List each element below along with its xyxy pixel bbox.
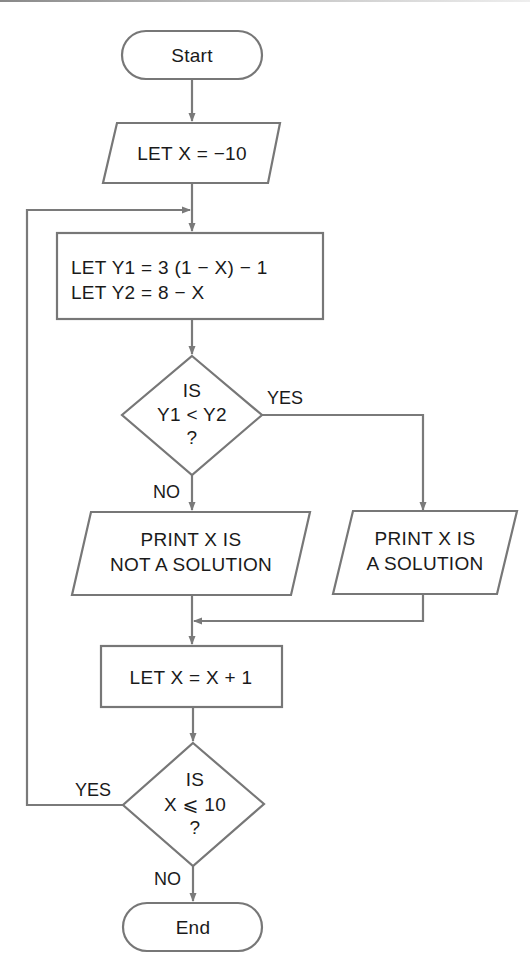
decision1-line-3: ? (187, 427, 198, 448)
solution-line-2: A SOLUTION (366, 553, 483, 574)
connector-decision1-yes (262, 415, 423, 510)
not-solution-line-2: NOT A SOLUTION (110, 554, 272, 575)
solution-output: PRINT X IS A SOLUTION (333, 511, 517, 594)
increment-label: LET X = X + 1 (130, 667, 253, 688)
decision1-yes-label: YES (267, 388, 303, 408)
not-solution-line-1: PRINT X IS (141, 529, 242, 550)
decision1-diamond: IS Y1 < Y2 ? (122, 356, 262, 475)
flowchart: Start LET X = −10 LET Y1 = 3 (1 − X) − 1… (0, 0, 530, 965)
compute-process: LET Y1 = 3 (1 − X) − 1 LET Y2 = 8 − X (57, 233, 323, 319)
decision2-no-label: NO (154, 869, 181, 889)
init-parallelogram: LET X = −10 (103, 123, 280, 183)
decision1-line-1: IS (183, 380, 202, 401)
solution-line-1: PRINT X IS (375, 528, 476, 549)
not-solution-output: PRINT X IS NOT A SOLUTION (72, 512, 310, 595)
decision2-line-1: IS (186, 769, 205, 790)
decision2-yes-label: YES (75, 780, 111, 800)
compute-line-2: LET Y2 = 8 − X (71, 282, 204, 303)
decision1-line-2: Y1 < Y2 (157, 404, 227, 425)
start-terminal: Start (122, 31, 262, 79)
increment-process: LET X = X + 1 (101, 646, 282, 707)
decision2-line-3: ? (190, 817, 201, 838)
init-label: LET X = −10 (137, 143, 247, 164)
decision1-no-label: NO (153, 482, 180, 502)
end-terminal: End (123, 903, 262, 951)
decision2-line-2: X ⩽ 10 (164, 794, 226, 815)
start-label: Start (171, 45, 213, 66)
connector-solution-merge (194, 595, 423, 621)
decision2-diamond: IS X ⩽ 10 ? (123, 743, 264, 866)
compute-line-1: LET Y1 = 3 (1 − X) − 1 (71, 257, 268, 278)
end-label: End (176, 917, 211, 938)
